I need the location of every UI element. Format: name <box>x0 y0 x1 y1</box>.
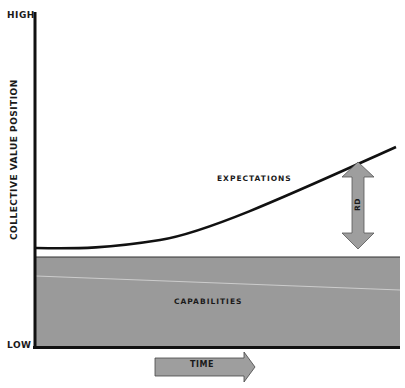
diagram-canvas <box>0 0 405 388</box>
y-axis-title: COLLECTIVE VALUE POSITION <box>9 79 19 240</box>
y-axis-low-label: LOW <box>7 340 32 350</box>
rd-label: RD <box>353 198 362 211</box>
capabilities-label: CAPABILITIES <box>174 297 242 306</box>
expectations-label: EXPECTATIONS <box>217 174 292 183</box>
y-axis-high-label: HIGH <box>7 10 35 20</box>
time-label: TIME <box>190 360 214 369</box>
